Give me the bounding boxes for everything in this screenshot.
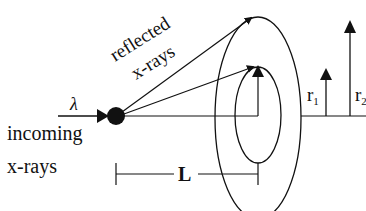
- r2-arrowhead-icon: [344, 20, 356, 33]
- sample-dot: [107, 107, 125, 125]
- label-r1: r1: [307, 84, 319, 107]
- label-r2: r2: [355, 84, 366, 107]
- label-lambda: λ: [69, 94, 78, 114]
- label-incoming: incoming: [7, 122, 83, 145]
- label-incoming-x-rays: x-rays: [7, 155, 57, 178]
- inner-radius-arrowhead-icon: [252, 65, 264, 77]
- label-distance-L: L: [178, 163, 191, 185]
- r1-arrowhead-icon: [320, 68, 332, 80]
- xray-diffraction-diagram: reflected x-rays λ incoming x-rays L r1 …: [0, 0, 366, 211]
